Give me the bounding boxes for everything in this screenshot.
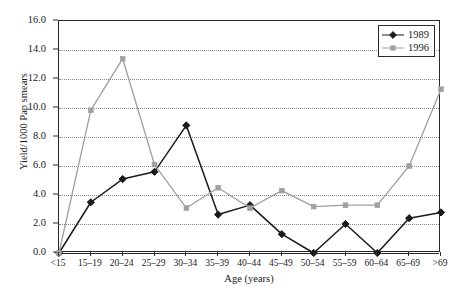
- chart-figure: 0.02.04.06.08.010.012.014.016.0 Yield/10…: [0, 0, 452, 292]
- x-tick-label: 25–29: [142, 258, 166, 269]
- x-tick-label: 15–19: [78, 258, 102, 269]
- data-point-marker: [407, 164, 412, 169]
- y-tick-label: 16.0: [28, 15, 46, 25]
- x-tick-label: 45–49: [269, 258, 293, 269]
- data-point-marker: [248, 206, 253, 211]
- data-point-marker: [120, 56, 125, 61]
- data-point-marker: [89, 108, 94, 113]
- y-tick-label: 12.0: [28, 73, 46, 83]
- chart-legend: 19891996: [378, 25, 435, 57]
- x-tick-mark: [408, 252, 409, 256]
- data-point-marker: [439, 87, 444, 92]
- legend-entry-1989[interactable]: 1989: [382, 28, 429, 41]
- x-axis: <1515–1920–2425–2930–3435–3940–4445–4950…: [58, 252, 440, 292]
- data-point-marker: [280, 188, 285, 193]
- data-point-marker: [375, 203, 380, 208]
- x-tick-mark: [249, 252, 250, 256]
- y-axis-title: Yield/1000 Pap smears: [18, 27, 29, 217]
- y-tick-label: 6.0: [33, 160, 46, 170]
- x-tick-mark: [217, 252, 218, 256]
- legend-label: 1996: [408, 41, 429, 54]
- x-tick-label: >69: [433, 258, 448, 269]
- x-tick-mark: [154, 252, 155, 256]
- y-tick-label: 4.0: [33, 189, 46, 199]
- data-point-marker: [152, 162, 157, 167]
- x-tick-mark: [122, 252, 123, 256]
- x-tick-mark: [90, 252, 91, 256]
- x-tick-label: 60–64: [364, 258, 388, 269]
- x-tick-label: 55–59: [333, 258, 357, 269]
- data-point-marker: [437, 209, 444, 216]
- x-tick-label: 50–54: [301, 258, 325, 269]
- series-line-1989: [59, 125, 441, 253]
- x-tick-mark: [440, 252, 441, 256]
- y-tick-label: 8.0: [33, 131, 46, 141]
- plot-area: 19891996: [58, 20, 440, 252]
- x-axis-title: Age (years): [58, 273, 440, 284]
- x-tick-label: 40–44: [237, 258, 261, 269]
- y-tick-label: 0.0: [33, 247, 46, 257]
- x-tick-label: 35–39: [205, 258, 229, 269]
- x-tick-mark: [345, 252, 346, 256]
- series-1989: [55, 122, 444, 257]
- legend-entry-1996[interactable]: 1996: [382, 41, 429, 54]
- x-tick-mark: [313, 252, 314, 256]
- x-tick-mark: [58, 252, 59, 256]
- square-marker-icon: [382, 42, 404, 53]
- series-line-1996: [59, 59, 441, 253]
- y-tick-label: 14.0: [28, 44, 46, 54]
- data-point-marker: [184, 206, 189, 211]
- y-axis: 0.02.04.06.08.010.012.014.016.0: [0, 20, 58, 252]
- x-tick-mark: [185, 252, 186, 256]
- x-tick-label: <15: [51, 258, 66, 269]
- x-tick-label: 20–24: [110, 258, 134, 269]
- y-tick-label: 10.0: [28, 102, 46, 112]
- x-tick-mark: [376, 252, 377, 256]
- data-point-marker: [311, 204, 316, 209]
- x-tick-label: 65–69: [396, 258, 420, 269]
- y-tick-label: 2.0: [33, 218, 46, 228]
- legend-label: 1989: [408, 28, 429, 41]
- diamond-marker-icon: [382, 29, 404, 40]
- data-point-marker: [343, 203, 348, 208]
- series-1996: [57, 56, 444, 255]
- x-tick-mark: [281, 252, 282, 256]
- data-point-marker: [215, 211, 222, 218]
- x-tick-label: 30–34: [173, 258, 197, 269]
- data-point-marker: [216, 185, 221, 190]
